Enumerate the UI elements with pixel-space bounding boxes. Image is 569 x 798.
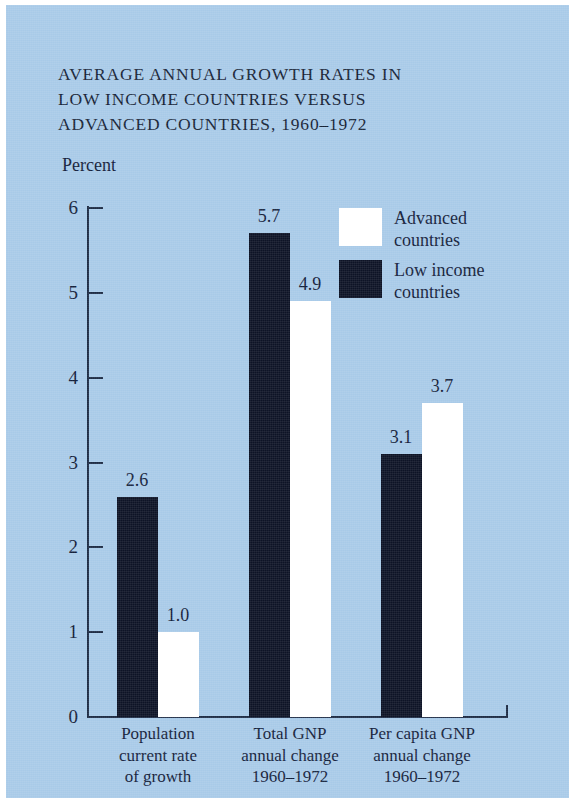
y-tick-label-1: 1 bbox=[54, 622, 78, 641]
bar-low-income-total-gnp bbox=[249, 233, 290, 717]
x-category-label-population-line-3: of growth bbox=[88, 766, 228, 788]
bar-value-advanced-total-gnp: 4.9 bbox=[285, 275, 335, 293]
x-category-label-total-gnp: Total GNP annual change 1960–1972 bbox=[220, 723, 360, 788]
y-tick-label-0: 0 bbox=[54, 707, 78, 726]
bar-value-low-income-population: 2.6 bbox=[112, 471, 162, 489]
bar-advanced-per-capita-gnp bbox=[422, 403, 463, 717]
y-tick-3 bbox=[87, 462, 103, 464]
legend-label-advanced-countries-line-1: Advanced bbox=[394, 208, 467, 230]
y-tick-2 bbox=[87, 546, 103, 548]
x-category-label-total-gnp-line-3: 1960–1972 bbox=[220, 766, 360, 788]
x-category-label-total-gnp-line-1: Total GNP bbox=[220, 723, 360, 745]
bar-low-income-population bbox=[117, 497, 158, 717]
plot-area: 6 5 4 3 2 1 0 2.6 1.0 5.7 4.9 3.1 3.7 Po… bbox=[6, 5, 569, 798]
legend-swatch-advanced-countries bbox=[339, 208, 382, 246]
bar-value-advanced-per-capita-gnp: 3.7 bbox=[417, 377, 467, 395]
y-tick-label-3: 3 bbox=[54, 453, 78, 472]
x-category-label-total-gnp-line-2: annual change bbox=[220, 745, 360, 767]
y-tick-1 bbox=[87, 631, 103, 633]
x-category-label-per-capita-gnp-line-2: annual change bbox=[352, 745, 492, 767]
bar-value-low-income-per-capita-gnp: 3.1 bbox=[376, 428, 426, 446]
legend-label-advanced-countries-line-2: countries bbox=[394, 230, 467, 252]
legend-item-advanced-countries: Advanced countries bbox=[339, 208, 467, 251]
legend-swatch-low-income-countries bbox=[339, 260, 382, 298]
bar-value-advanced-population: 1.0 bbox=[153, 606, 203, 624]
x-category-label-per-capita-gnp-line-3: 1960–1972 bbox=[352, 766, 492, 788]
legend-label-low-income-countries: Low income countries bbox=[394, 260, 484, 303]
y-tick-label-2: 2 bbox=[54, 537, 78, 556]
bar-low-income-per-capita-gnp bbox=[381, 454, 422, 717]
y-tick-4 bbox=[87, 377, 103, 379]
legend-label-low-income-countries-line-2: countries bbox=[394, 282, 484, 304]
legend-label-low-income-countries-line-1: Low income bbox=[394, 260, 484, 282]
y-tick-label-6: 6 bbox=[54, 198, 78, 217]
bar-advanced-total-gnp bbox=[290, 301, 331, 717]
x-axis-right-cap bbox=[506, 705, 508, 718]
x-category-label-per-capita-gnp: Per capita GNP annual change 1960–1972 bbox=[352, 723, 492, 788]
y-tick-6 bbox=[87, 207, 103, 209]
legend-label-advanced-countries: Advanced countries bbox=[394, 208, 467, 251]
y-tick-5 bbox=[87, 292, 103, 294]
chart-figure: AVERAGE ANNUAL GROWTH RATES IN LOW INCOM… bbox=[6, 5, 569, 798]
y-tick-label-4: 4 bbox=[54, 368, 78, 387]
bar-value-low-income-total-gnp: 5.7 bbox=[244, 207, 294, 225]
legend-item-low-income-countries: Low income countries bbox=[339, 260, 484, 303]
x-category-label-per-capita-gnp-line-1: Per capita GNP bbox=[352, 723, 492, 745]
x-category-label-population-line-2: current rate bbox=[88, 745, 228, 767]
x-category-label-population-line-1: Population bbox=[88, 723, 228, 745]
y-tick-label-5: 5 bbox=[54, 283, 78, 302]
x-category-label-population: Population current rate of growth bbox=[88, 723, 228, 788]
bar-advanced-population bbox=[158, 632, 199, 717]
